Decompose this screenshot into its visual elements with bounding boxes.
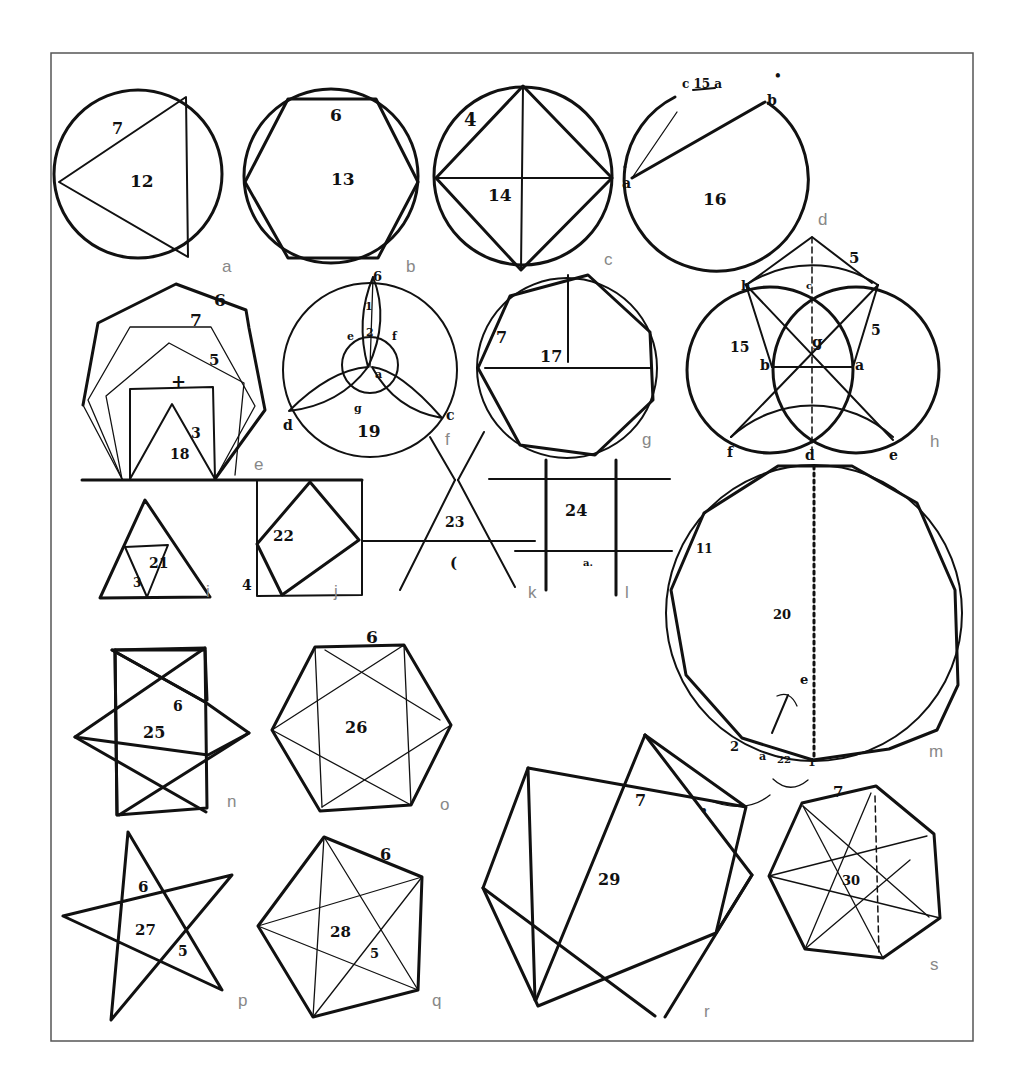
svg-text:a: a [855,357,864,373]
svg-text:7: 7 [635,791,646,810]
caption-e: e [254,455,263,474]
svg-text:5: 5 [871,322,881,338]
svg-text:e: e [800,672,808,687]
svg-text:19: 19 [357,421,381,441]
figure-a: 7 12 a [54,90,232,276]
svg-text:a: a [375,368,382,381]
svg-text:3: 3 [191,425,201,441]
svg-text:g: g [354,402,362,415]
svg-text:7: 7 [496,328,507,347]
svg-text:c: c [806,280,812,291]
svg-text:6: 6 [366,627,378,647]
svg-text:3: 3 [133,576,141,590]
svg-text:11: 11 [696,542,713,556]
figure-n: 6 25 n [75,648,249,815]
figure-o: 6 26 o [272,627,451,814]
svg-text:6: 6 [330,105,342,125]
caption-p: p [238,991,247,1010]
svg-text:14: 14 [488,185,512,205]
figure-m: 11 20 e 2 a 22 1 m [666,465,962,806]
svg-text:23: 23 [445,514,464,530]
svg-text:17: 17 [540,347,562,366]
caption-d: d [818,210,827,229]
caption-m: m [929,742,943,761]
svg-text:16: 16 [703,189,727,209]
svg-text:1: 1 [365,300,373,313]
svg-text:e: e [889,447,898,463]
svg-text:h: h [741,278,751,293]
svg-text:22: 22 [273,527,294,545]
svg-text:6: 6 [138,878,148,896]
svg-text:7: 7 [833,783,843,801]
svg-text:(: ( [450,554,457,572]
caption-h: h [930,432,939,451]
svg-text:6: 6 [380,845,391,864]
svg-text:d: d [283,417,293,433]
figure-k: 23 ( k [362,480,537,602]
svg-text:6: 6 [214,290,226,310]
svg-text:b: b [760,357,770,373]
caption-i: i [206,582,210,601]
svg-text:25: 25 [143,723,165,742]
svg-text:f: f [727,444,734,460]
caption-a: a [222,257,232,276]
caption-f: f [445,430,450,449]
svg-text:4: 4 [242,577,252,593]
figure-i: 21 3 i [100,500,210,601]
svg-text:22: 22 [777,754,791,765]
svg-text:29: 29 [598,870,620,889]
figure-l: 24 a. l [489,460,672,602]
svg-text:6: 6 [173,698,183,714]
figure-g: 7 17 g [477,275,657,458]
svg-text:d: d [805,447,815,463]
caption-l: l [625,583,629,602]
svg-text:21: 21 [149,555,168,571]
svg-text:b: b [767,92,777,108]
figure-j: 22 4 j [238,480,362,601]
svg-text:5: 5 [209,351,219,369]
svg-text:e: e [347,330,354,343]
figure-r: 7 • 29 r [483,735,752,1021]
svg-text:2: 2 [366,326,374,339]
svg-text:28: 28 [330,923,351,941]
figure-d: c 15 a a b • 16 d [622,69,827,271]
figure-f: 6 1 2 e f a g d c 19 f [283,269,484,480]
svg-text:6: 6 [373,269,382,284]
svg-text:5: 5 [370,946,379,961]
svg-text:18: 18 [170,446,189,462]
svg-text:c 15 a: c 15 a [682,77,722,91]
svg-text:f: f [392,330,398,343]
svg-text:7: 7 [112,119,123,138]
caption-o: o [440,795,449,814]
svg-text:27: 27 [135,921,156,939]
svg-text:7: 7 [190,310,202,330]
geometry-plate-svg: 7 12 a 6 13 b 4 14 c c 15 a a b • 16 d [0,0,1029,1086]
svg-text:20: 20 [773,607,791,622]
svg-text:•: • [700,804,708,818]
caption-j: j [333,582,338,601]
svg-text:5: 5 [178,943,188,959]
figure-c: 4 14 c [434,86,613,270]
svg-text:+: + [171,371,186,392]
svg-text:•: • [774,69,782,83]
svg-text:13: 13 [331,169,355,189]
figure-q: 6 28 5 q [258,837,441,1017]
svg-text:15: 15 [730,339,749,355]
figure-e: 7 6 5 + 3 18 e [82,284,362,480]
caption-b: b [406,257,415,276]
svg-text:g: g [812,333,823,351]
caption-k: k [528,583,537,602]
svg-text:24: 24 [565,501,587,520]
caption-s: s [930,955,939,974]
svg-text:5: 5 [849,249,859,267]
svg-text:1: 1 [808,756,816,769]
figure-p: 6 27 5 p [63,832,247,1020]
caption-q: q [432,991,441,1010]
figure-b: 6 13 b [244,89,418,276]
caption-r: r [704,1002,710,1021]
svg-text:2: 2 [730,739,739,754]
svg-text:a.: a. [583,557,593,568]
svg-text:30: 30 [842,873,860,888]
caption-g: g [642,430,651,449]
svg-text:26: 26 [345,718,367,737]
